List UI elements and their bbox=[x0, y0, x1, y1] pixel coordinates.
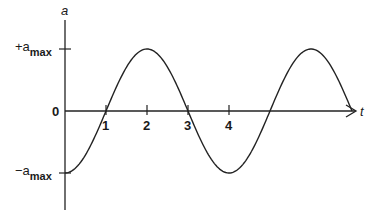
y-axis-label: a bbox=[61, 3, 68, 18]
x-tick-label: 3 bbox=[184, 118, 191, 133]
y-tick-label: 0 bbox=[52, 104, 59, 119]
y-tick-label: +amax bbox=[15, 39, 53, 58]
x-axis-label: t bbox=[360, 104, 365, 119]
acceleration-time-graph: t a 1234 +amax0−amax bbox=[0, 0, 380, 221]
x-tick-label: 4 bbox=[225, 118, 233, 133]
x-tick-label: 2 bbox=[143, 118, 150, 133]
y-tick-label: −amax bbox=[15, 163, 53, 182]
x-tick-label: 1 bbox=[102, 118, 109, 133]
